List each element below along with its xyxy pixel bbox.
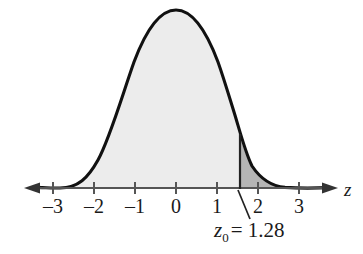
right-tail-shading [240,136,332,188]
z0-value: = 1.28 [229,218,285,242]
normal-curve-figure: –3 –2 –1 0 1 2 3 z z0= 1.28 [0,0,363,254]
axis-variable-label-z: z [344,179,351,201]
z0-variable: z [214,218,222,242]
tick-label-2: 2 [238,196,278,216]
tick-label-neg3: –3 [33,196,73,216]
axis-right-arrowhead [322,183,338,194]
tick-label-0: 0 [156,196,196,216]
z0-subscript: 0 [222,230,229,245]
tick-label-neg1: –1 [115,196,155,216]
tick-label-3: 3 [279,196,319,216]
tick-label-neg2: –2 [74,196,114,216]
axis-left-arrowhead [24,183,40,194]
distribution-body-shading [31,10,240,188]
z0-annotation-label: z0= 1.28 [214,218,285,250]
tick-label-1: 1 [197,196,237,216]
